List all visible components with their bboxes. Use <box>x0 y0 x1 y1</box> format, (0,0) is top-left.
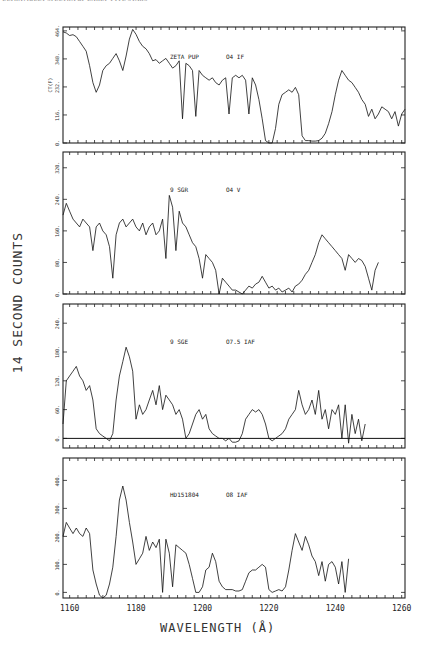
spectrum-line <box>63 347 365 443</box>
y-tick-label: 0. <box>54 435 60 441</box>
y-tick-label: 348. <box>54 53 60 65</box>
spectra-chart: 0.116.232.348.464.ZETA PUPO4 IFCT(F)0.80… <box>0 0 431 654</box>
y-tick-label: 120. <box>54 375 60 387</box>
star-name-label: 9 SGR <box>170 186 188 193</box>
y-tick-label: 0. <box>54 140 60 146</box>
x-tick-label: 1260 <box>392 604 411 613</box>
y-tick-label: 0. <box>54 291 60 297</box>
spectrum-line <box>63 486 349 598</box>
x-tick-label: 1180 <box>126 604 145 613</box>
y-tick-label: 0. <box>54 589 60 595</box>
spectrum-line <box>63 195 378 294</box>
x-tick-label: 1160 <box>60 604 79 613</box>
y-tick-label: 200. <box>54 530 60 542</box>
spectral-type-label: O4 IF <box>226 53 244 60</box>
y-tick-label: 180. <box>54 346 60 358</box>
star-name-label: HD151804 <box>170 491 199 498</box>
x-tick-label: 1200 <box>193 604 212 613</box>
spectrum-line <box>63 29 405 143</box>
y-tick-label: 300. <box>54 502 60 514</box>
y-tick-label: 100. <box>54 558 60 570</box>
panel-frame <box>63 458 405 598</box>
star-name-label: 9 SGE <box>170 338 188 345</box>
y-tick-label: 464. <box>54 25 60 37</box>
y-tick-label: 240. <box>54 193 60 205</box>
y-tick-label: 232. <box>54 81 60 93</box>
y-tick-label: 80. <box>54 258 60 267</box>
y-tick-label: 116. <box>54 109 60 121</box>
y-tick-label: 400. <box>54 474 60 486</box>
y-tick-label: 240. <box>54 317 60 329</box>
panel-y-axis-label: CT(F) <box>47 77 53 92</box>
spectral-type-label: O7.5 IAF <box>226 338 255 345</box>
y-tick-label: 160. <box>54 225 60 237</box>
x-tick-label: 1240 <box>326 604 345 613</box>
spectral-type-label: O4 V <box>226 186 241 193</box>
y-tick-label: 60. <box>54 405 60 414</box>
y-tick-label: 320. <box>54 162 60 174</box>
x-tick-label: 1220 <box>259 604 278 613</box>
spectral-type-label: O8 IAF <box>226 491 248 498</box>
panel-frame <box>63 152 405 294</box>
star-name-label: ZETA PUP <box>170 53 199 60</box>
